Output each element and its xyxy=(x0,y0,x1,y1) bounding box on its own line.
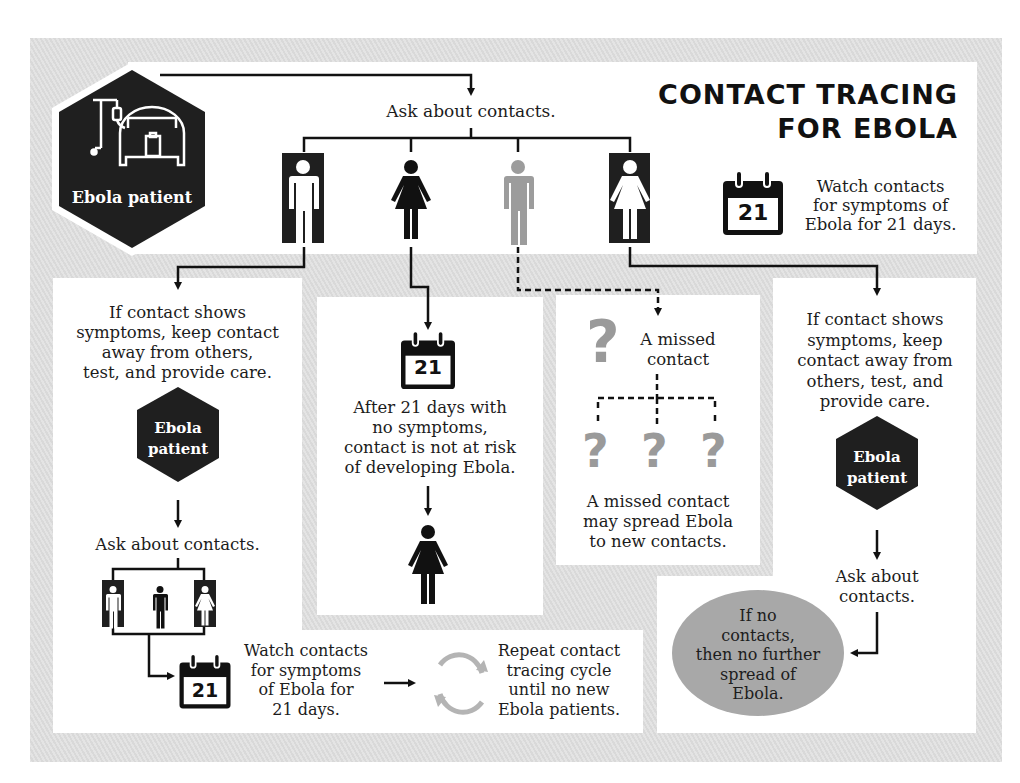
right-patient-label: Ebola patient xyxy=(837,447,917,489)
ask-contacts-top: Ask about contacts. xyxy=(360,101,582,121)
watch-contacts-top: Watch contacts for symptoms of Ebola for… xyxy=(798,177,963,234)
right-symptoms-text: If contact shows symptoms, keep contact … xyxy=(776,310,974,413)
page-title: CONTACT TRACING FOR EBOLA xyxy=(658,78,958,146)
left-patient-label: Ebola patient xyxy=(138,418,218,460)
calendar-number-left: 21 xyxy=(180,679,230,701)
missed-contact-label: A missed contact xyxy=(628,330,728,370)
middle-text: After 21 days with no symptoms, contact … xyxy=(320,398,540,478)
question-mark-icon: ? xyxy=(582,426,609,476)
right-ask-contacts: Ask about contacts. xyxy=(800,567,954,607)
start-node-label: Ebola patient xyxy=(60,188,204,207)
end-text: If no contacts, then no further spread o… xyxy=(672,606,844,704)
question-mark-icon: ? xyxy=(586,312,620,372)
woman-icon xyxy=(408,525,448,604)
repeat-cycle-icon xyxy=(440,655,482,712)
question-mark-icon: ? xyxy=(700,426,727,476)
left-watch-text: Watch contacts for symptoms of Ebola for… xyxy=(232,641,380,719)
repeat-cycle-text: Repeat contact tracing cycle until no ne… xyxy=(484,641,634,719)
woman-icon xyxy=(391,160,431,239)
question-mark-icon: ? xyxy=(641,426,668,476)
calendar-number-top: 21 xyxy=(723,200,783,225)
calendar-number-middle: 21 xyxy=(402,355,454,379)
man-icon-missed xyxy=(504,160,534,245)
left-ask-contacts: Ask about contacts. xyxy=(70,535,285,555)
missed-spread-text: A missed contact may spread Ebola to new… xyxy=(558,492,758,552)
left-symptoms-text: If contact shows symptoms, keep contact … xyxy=(55,303,300,383)
